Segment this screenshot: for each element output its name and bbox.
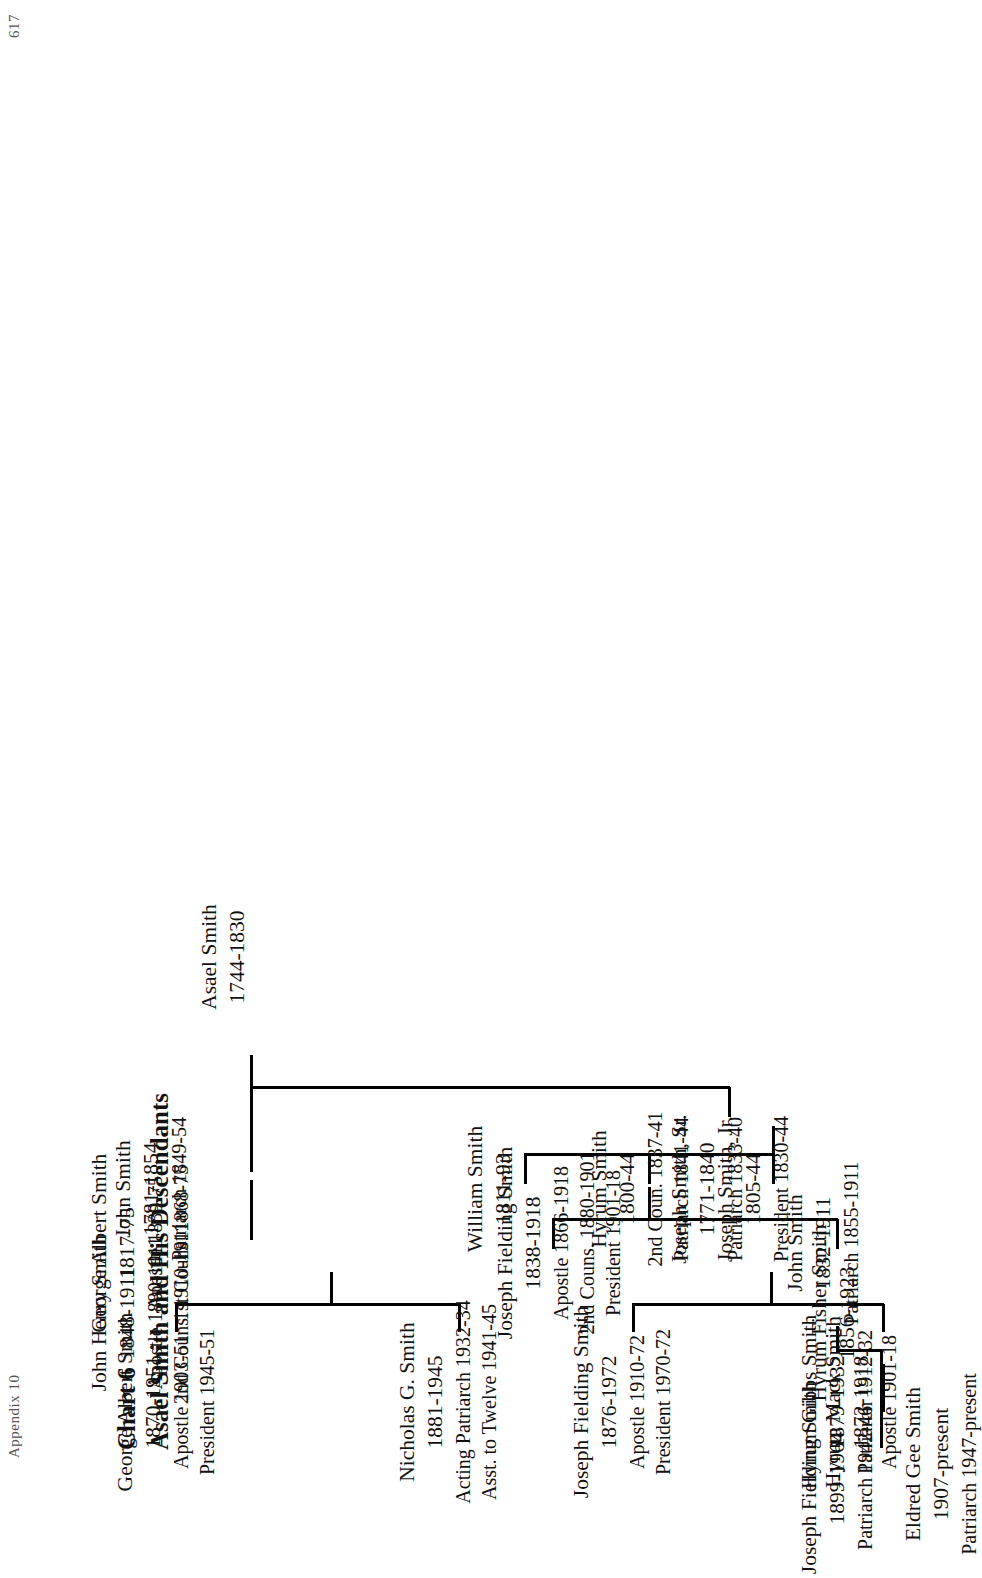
- node-dates: 1744-1830: [224, 842, 252, 1072]
- connector-jhs1848-stub: [330, 1272, 333, 1306]
- node-name: Joseph Fielding Smith: [492, 1118, 520, 1368]
- node-george-albert-smith-1870: George Albert Smith 1870-1951 Apostle 19…: [112, 1274, 220, 1530]
- connector-john1781-to-gas1817: [250, 1112, 253, 1172]
- folio-left: Appendix 10: [6, 1375, 23, 1458]
- node-dates: 1838-1918: [520, 1118, 548, 1368]
- node-name: William Smith: [462, 1074, 490, 1304]
- node-office: Apostle 1901-18: [876, 1274, 902, 1530]
- node-name: Joseph Fielding Smith: [796, 1350, 824, 1578]
- node-office-2: Patriarch 1841-44: [668, 1074, 694, 1304]
- node-eldred-gee-smith-1907: Eldred Gee Smith 1907-present Patriarch …: [900, 1336, 982, 1578]
- node-office-1: 2nd Coun. 1837-41: [642, 1074, 668, 1304]
- node-office: Patriarch 1947-present: [956, 1336, 982, 1578]
- node-dates: 1881-1945: [422, 1274, 450, 1530]
- node-name: Eldred Gee Smith: [900, 1336, 928, 1578]
- node-name: Joseph Smith, Jr.: [712, 1074, 740, 1304]
- node-asael-smith: Asael Smith 1744-1830: [196, 842, 252, 1072]
- node-office-1: Acting Patriarch 1932-34: [450, 1274, 476, 1530]
- node-name: Asael Smith: [196, 842, 224, 1072]
- connector-gas1817-to-jhs1848: [250, 1180, 253, 1240]
- node-dates: 1870-1951: [140, 1274, 168, 1530]
- node-name: John Henry Smith: [86, 1188, 114, 1438]
- node-office-1: Apostle 1910-72: [624, 1274, 650, 1530]
- node-office-2: President 1970-72: [650, 1274, 676, 1530]
- node-nicholas-g-smith-1881: Nicholas G. Smith 1881-1945 Acting Patri…: [394, 1274, 502, 1530]
- node-joseph-fielding-smith-1899: Joseph Fielding Smith 1899-1964 Patriarc…: [796, 1350, 878, 1578]
- node-office: Patriarch 1942-46: [852, 1350, 878, 1578]
- node-office-2: President 1945-51: [194, 1274, 220, 1530]
- node-name: Joseph Fielding Smith: [568, 1274, 596, 1530]
- node-dates: 1805-44: [740, 1074, 768, 1304]
- node-office-1: Apostle 1903-51: [168, 1274, 194, 1530]
- node-name: George Albert Smith: [112, 1274, 140, 1530]
- node-dates: 1876-1972: [596, 1274, 624, 1530]
- node-dates: 1899-1964: [824, 1350, 852, 1578]
- node-dates: 1907-present: [928, 1336, 956, 1578]
- node-name: Nicholas G. Smith: [394, 1274, 422, 1530]
- folio-right: 617: [6, 14, 23, 38]
- node-joseph-fielding-smith-1876: Joseph Fielding Smith 1876-1972 Apostle …: [568, 1274, 676, 1530]
